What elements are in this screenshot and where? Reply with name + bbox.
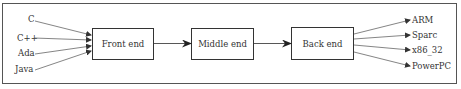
front-end-label: Front end <box>102 39 145 49</box>
input-arrows <box>34 21 91 70</box>
middle-end-label: Middle end <box>198 39 247 49</box>
input-label-c: C <box>28 14 35 24</box>
output-label-powerpc: PowerPC <box>412 61 451 71</box>
arrow-java <box>35 51 91 70</box>
stage-middle-end: Middle end <box>192 29 254 60</box>
arrow-c <box>35 21 91 35</box>
input-label-java: Java <box>14 64 33 74</box>
arrow-cpp <box>34 38 91 40</box>
output-label-sparc: Sparc <box>412 30 437 40</box>
input-label-ada: Ada <box>17 48 35 58</box>
stage-back-end: Back end <box>292 28 354 60</box>
output-label-arm: ARM <box>411 15 434 25</box>
output-arrows <box>354 20 410 66</box>
arrow-ada <box>35 46 91 54</box>
output-targets: ARM Sparc x86_32 PowerPC <box>411 15 451 71</box>
compiler-pipeline-diagram: C C++ Ada Java Front end Middle end Back… <box>0 0 461 89</box>
arrow-arm <box>354 20 410 34</box>
input-languages: C C++ Ada Java <box>14 14 38 74</box>
stage-front-end: Front end <box>93 29 154 60</box>
arrow-sparc <box>354 35 410 39</box>
back-end-label: Back end <box>303 39 343 49</box>
output-label-x86-32: x86_32 <box>412 45 443 56</box>
arrow-powerpc <box>354 52 410 66</box>
arrow-x86 <box>354 45 410 50</box>
